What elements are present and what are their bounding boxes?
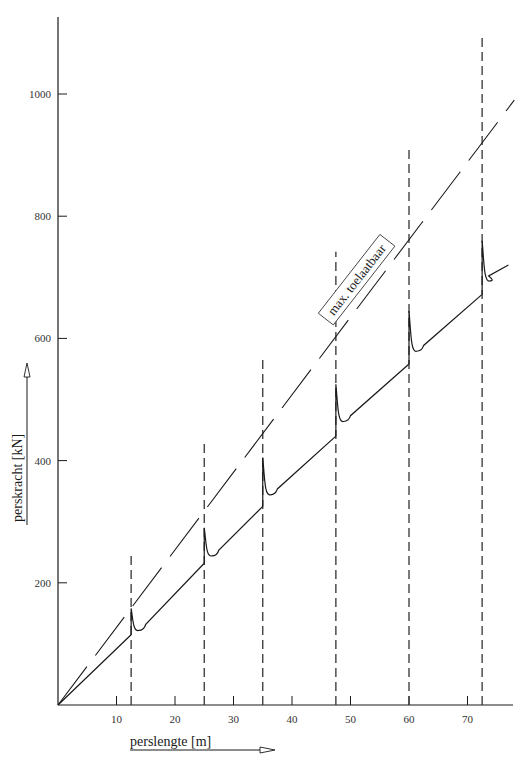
y-tick-label: 200	[35, 577, 52, 589]
chart-canvas: 102030405060702004006008001000 max. toel…	[0, 0, 529, 767]
x-tick-label: 30	[228, 713, 240, 725]
ticks: 102030405060702004006008001000	[29, 88, 474, 725]
x-tick-label: 70	[462, 713, 474, 725]
y-tick-label: 800	[35, 210, 52, 222]
y-tick-label: 400	[35, 455, 52, 467]
max-allowed-line-path	[58, 100, 514, 705]
y-tick-label: 1000	[29, 88, 52, 100]
x-tick-label: 40	[287, 713, 299, 725]
push-force-curve	[58, 241, 508, 705]
vertical-dashed-lines	[131, 37, 482, 705]
x-axis-label: perslengte [m]	[130, 734, 211, 749]
y-axis-label-group: perskracht [kN]	[10, 363, 30, 525]
x-arrow-icon	[260, 747, 275, 753]
x-tick-label: 60	[404, 713, 416, 725]
annotation-max-toelaatbaar: max. toelaatbaar	[318, 234, 395, 324]
axes	[58, 17, 513, 705]
y-tick-label: 600	[35, 332, 52, 344]
x-tick-label: 50	[345, 713, 357, 725]
y-axis-label: perskracht [kN]	[10, 434, 25, 522]
push-force-curve-path	[58, 241, 508, 705]
x-tick-label: 10	[111, 713, 123, 725]
max-allowed-line	[58, 100, 514, 705]
x-tick-label: 20	[170, 713, 182, 725]
y-arrow-icon	[24, 363, 30, 377]
x-axis-label-group: perslengte [m]	[130, 734, 275, 753]
